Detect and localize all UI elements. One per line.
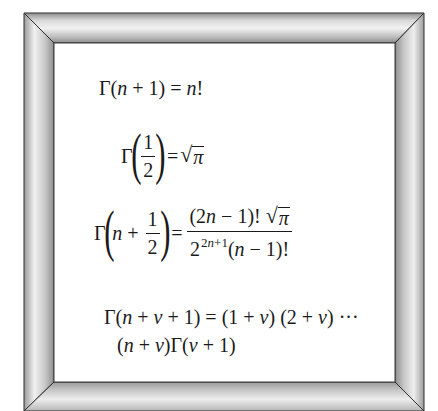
fraction-bar [187, 231, 291, 232]
square-root: √π [266, 205, 290, 229]
right-paren: ) [155, 126, 165, 182]
right-paren: ) [160, 203, 170, 259]
frame-bottom [24, 382, 424, 411]
radical-sign-icon: √ [180, 144, 192, 166]
frame-left [24, 13, 54, 411]
fraction-bar [146, 233, 160, 234]
fraction-one-half: 1 2 [146, 208, 160, 259]
gamma-symbol: Γ [171, 334, 183, 356]
frame-right [395, 13, 424, 411]
exponent: 2n+1 [201, 235, 228, 250]
fraction-bar [141, 156, 155, 157]
square-root: √ π [180, 144, 204, 168]
fraction-one-half: 1 2 [141, 131, 155, 182]
equation-gamma-integer: Γ(n + 1) = n! [99, 78, 203, 98]
equation-gamma-half-integer: Γ ( n + 1 2 ) = (2n − 1)!√π 22n+1(n − 1)… [94, 201, 294, 265]
equation-gamma-recurrence-line2: (n + v)Γ(v + 1) [107, 315, 236, 355]
radical-sign-icon: √ [266, 205, 278, 227]
left-paren: ( [104, 203, 114, 259]
frame-top [24, 13, 424, 43]
left-paren: ( [131, 126, 141, 182]
fraction-rhs: (2n − 1)!√π 22n+1(n − 1)! [187, 205, 291, 261]
equation-gamma-half: Γ ( 1 2 ) = √ π [121, 126, 204, 186]
gamma-symbol: Γ [99, 77, 111, 99]
